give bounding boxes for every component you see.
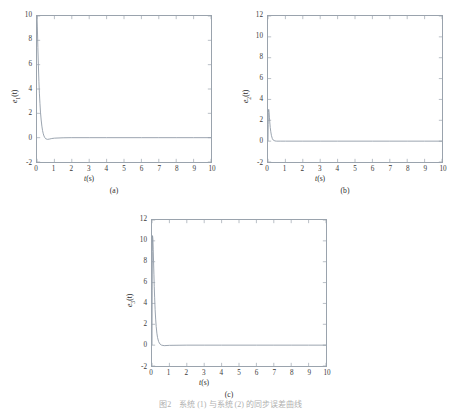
plot-area-c xyxy=(151,219,327,367)
x-tick-label: 9 xyxy=(189,166,199,173)
y-tick-label: 0 xyxy=(131,342,147,349)
y-tick-label: 6 xyxy=(16,61,32,68)
curve-e2 xyxy=(268,16,442,162)
x-tick-label: 7 xyxy=(385,166,395,173)
x-tick-label: 6 xyxy=(368,166,378,173)
x-tick-label: 1 xyxy=(280,166,290,173)
x-tick-label: 10 xyxy=(438,166,448,173)
y-tick-label: 0 xyxy=(247,138,263,145)
panel-label-b: (b) xyxy=(330,186,360,195)
x-tick-label: 3 xyxy=(199,370,209,377)
y-tick-label: 8 xyxy=(131,258,147,265)
subplot-b: e2(t) t(s) (b) -2024681012012345678910 xyxy=(231,0,461,204)
x-tick-label: 0 xyxy=(31,166,41,173)
plot-area-b xyxy=(267,15,443,163)
y-tick-label: 6 xyxy=(131,279,147,286)
x-tick-label: 2 xyxy=(297,166,307,173)
subplot-a: e1(t) t(s) (a) -20246810012345678910 xyxy=(0,0,230,204)
y-tick-label: 4 xyxy=(16,86,32,93)
x-tick-label: 5 xyxy=(234,370,244,377)
x-tick-label: 3 xyxy=(84,166,94,173)
x-tick-label: 2 xyxy=(181,370,191,377)
y-tick-label: 4 xyxy=(247,96,263,103)
x-tick-label: 1 xyxy=(49,166,59,173)
y-tick-label: 10 xyxy=(16,12,32,19)
x-axis-label-a: t(s) xyxy=(84,174,94,183)
y-tick-label: 2 xyxy=(247,117,263,124)
x-tick-label: 2 xyxy=(66,166,76,173)
figure-caption: 图2 系统 (1) 与系统 (2) 的同步误差曲线 xyxy=(0,398,461,409)
y-tick-label: -2 xyxy=(131,364,147,371)
x-tick-label: 4 xyxy=(332,166,342,173)
y-tick-label: 4 xyxy=(131,300,147,307)
x-tick-label: 0 xyxy=(262,166,272,173)
x-tick-label: 9 xyxy=(420,166,430,173)
y-tick-label: 8 xyxy=(247,54,263,61)
y-tick-label: 0 xyxy=(16,135,32,142)
panel-label-a: (a) xyxy=(99,186,129,195)
y-tick-label: 2 xyxy=(131,321,147,328)
x-tick-label: 4 xyxy=(216,370,226,377)
x-tick-label: 9 xyxy=(304,370,314,377)
x-tick-label: 10 xyxy=(322,370,332,377)
plot-area-a xyxy=(36,15,212,163)
x-tick-label: 7 xyxy=(269,370,279,377)
curve-e3 xyxy=(152,220,326,366)
curve-e1 xyxy=(37,16,211,162)
x-tick-label: 10 xyxy=(207,166,217,173)
y-tick-label: 10 xyxy=(131,237,147,244)
x-tick-label: 7 xyxy=(154,166,164,173)
x-axis-label-c: t(s) xyxy=(199,378,209,387)
y-tick-label: 12 xyxy=(247,12,263,19)
x-tick-label: 5 xyxy=(119,166,129,173)
y-tick-label: -2 xyxy=(247,160,263,167)
x-tick-label: 8 xyxy=(172,166,182,173)
x-tick-label: 8 xyxy=(287,370,297,377)
x-tick-label: 5 xyxy=(350,166,360,173)
subplot-c: e3(t) t(s) (c) -2024681012012345678910 xyxy=(115,204,345,408)
y-tick-label: 2 xyxy=(16,110,32,117)
y-tick-label: 12 xyxy=(131,216,147,223)
x-tick-label: 8 xyxy=(403,166,413,173)
y-tick-label: 10 xyxy=(247,33,263,40)
x-tick-label: 4 xyxy=(101,166,111,173)
x-tick-label: 6 xyxy=(252,370,262,377)
y-tick-label: -2 xyxy=(16,160,32,167)
y-tick-label: 8 xyxy=(16,36,32,43)
x-tick-label: 1 xyxy=(164,370,174,377)
x-tick-label: 6 xyxy=(137,166,147,173)
x-tick-label: 0 xyxy=(146,370,156,377)
x-tick-label: 3 xyxy=(315,166,325,173)
y-tick-label: 6 xyxy=(247,75,263,82)
x-axis-label-b: t(s) xyxy=(315,174,325,183)
